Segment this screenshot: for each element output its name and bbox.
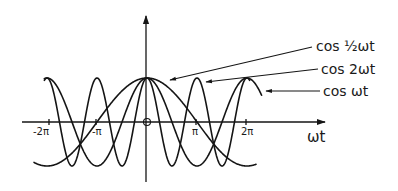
label-cos-omega-t: cos ωt [323, 83, 369, 99]
leader-arrow-cos-2 [206, 69, 318, 82]
cosine-frequency-diagram: -2π -π π 2π ωt cos ½ωt cos 2ωt cos ωt [0, 0, 398, 191]
tick-label-pi: π [192, 126, 198, 137]
tick-label-2pi: 2π [241, 126, 253, 137]
leader-arrow-cos-half [170, 47, 312, 80]
tick-label-neg-2pi: -2π [33, 126, 49, 137]
label-cos-2-omega-t: cos 2ωt [321, 61, 376, 77]
plot-canvas: -2π -π π 2π ωt cos ½ωt cos 2ωt cos ωt [0, 0, 398, 191]
x-axis-label: ωt [307, 128, 326, 146]
label-cos-half-omega-t: cos ½ωt [316, 38, 375, 54]
